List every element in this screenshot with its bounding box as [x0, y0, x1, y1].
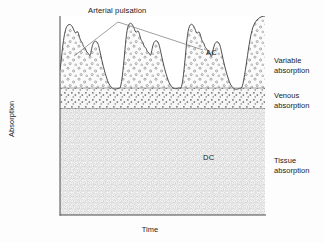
side-label-variable-absorption: Variable absorption [274, 56, 310, 75]
ac-label: AC [206, 48, 217, 57]
side-label-tissue-absorption: Tissue absorption [274, 156, 310, 175]
band-tissue-absorption [60, 108, 265, 215]
dc-label: DC [203, 153, 215, 162]
pulse-oximetry-absorption-diagram: Arterial pulsation AC DC Absorption Time… [0, 0, 324, 243]
side-label-variable-line2: absorption [274, 66, 310, 75]
x-axis-label: Time [142, 225, 159, 234]
diagram-canvas: Arterial pulsation AC DC Absorption Time… [0, 0, 324, 243]
side-label-venous-line2: absorption [274, 101, 310, 110]
band-venous-absorption [60, 88, 265, 108]
side-label-variable-line1: Variable [274, 56, 301, 65]
y-axis-label: Absorption [7, 101, 16, 137]
side-label-tissue-line2: absorption [274, 166, 310, 175]
side-label-tissue-line1: Tissue [274, 156, 296, 165]
side-label-venous-line1: Venous [274, 91, 300, 100]
diagram-title: Arterial pulsation [88, 6, 146, 15]
side-label-venous-absorption: Venous absorption [274, 91, 310, 110]
